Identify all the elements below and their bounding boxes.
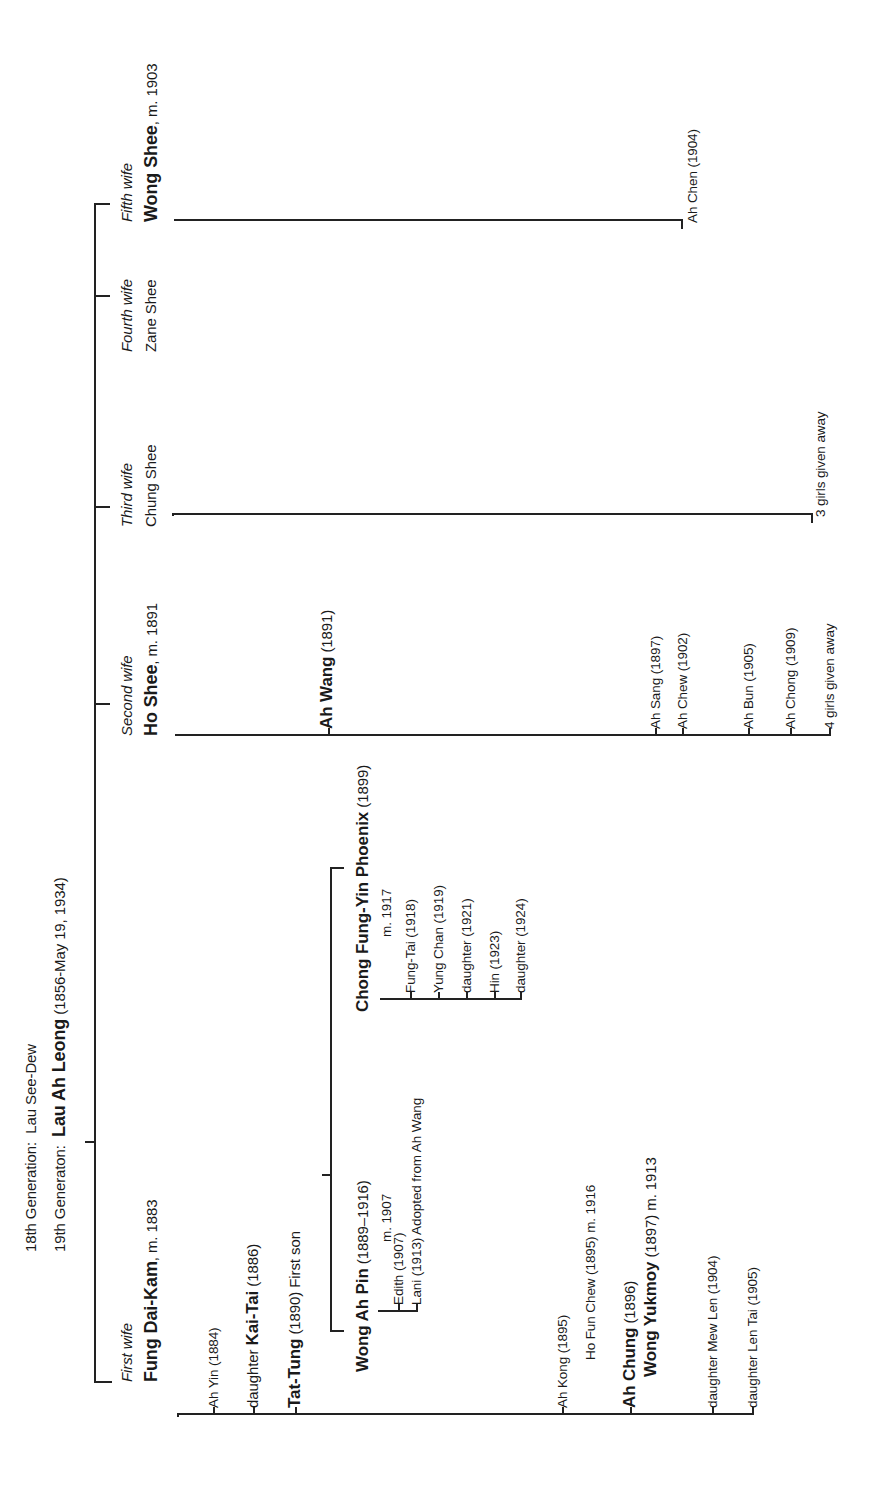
wife1-label: Fung Dai-Kam, m. 1883 — [142, 1200, 161, 1382]
child-hin: Hin (1923) — [486, 931, 504, 993]
child-ah-chen: Ah Chen (1904) — [684, 129, 702, 223]
child-tick — [213, 1407, 215, 1415]
wife5-ordinal: Fifth wife — [118, 163, 136, 222]
child-tick — [630, 1407, 632, 1415]
chong-married: m. 1917 — [378, 889, 396, 937]
child-4-girls: 4 girls given away — [821, 623, 839, 729]
generation-18: 18th Generation: Lau See-Dew — [22, 1044, 40, 1252]
child-daughter-1921: daughter (1921) — [458, 898, 476, 993]
wife2-name: Ho Shee — [141, 665, 161, 736]
wife5-children-line — [174, 219, 682, 221]
wife2-tick — [94, 703, 110, 705]
spouse-ho-fun-chew: Ho Fun Chew (1895) m. 1916 — [582, 1185, 600, 1360]
wife5-note: , m. 1903 — [143, 64, 160, 126]
name: Kai-Tai — [243, 1291, 262, 1346]
child-tick — [253, 1407, 255, 1415]
wife2-children-line — [175, 734, 830, 736]
generation-19: 19th Generaton: Lau Ah Leong (1856-May 1… — [50, 877, 69, 1252]
note: (1890) First son — [286, 1231, 303, 1339]
prefix: daughter — [244, 1346, 261, 1408]
note: (1897) m. 1913 — [642, 1157, 659, 1261]
child-tick — [562, 1407, 564, 1415]
chong-children-line — [380, 998, 522, 1000]
gen19-name: Lau Ah Leong — [49, 1019, 69, 1137]
child-ah-kong: Ah Kong (1895) — [554, 1315, 572, 1408]
child-tick — [748, 728, 750, 736]
child-tick — [655, 728, 657, 736]
wife3-tick — [94, 506, 110, 508]
name: Ah Chung — [620, 1328, 639, 1408]
child-tick — [752, 1407, 754, 1415]
child-tick — [438, 992, 440, 1000]
name: Tat-Tung — [285, 1339, 304, 1408]
child-ah-chew: Ah Chew (1902) — [674, 633, 692, 729]
child-tick — [681, 219, 683, 229]
gen19-dates: (1856-May 19, 1934) — [51, 877, 68, 1014]
child-tick — [682, 728, 684, 736]
bracket-end — [330, 1330, 344, 1332]
child-tick — [466, 992, 468, 1000]
wife3-children-line — [172, 513, 812, 515]
wife4-tick — [94, 295, 110, 297]
name: Chong Fung-Yin Phoenix — [353, 812, 372, 1012]
child-tick — [829, 728, 831, 736]
wife5-tick — [94, 203, 110, 205]
family-tree: 18th Generation: Lau See-Dew 19th Genera… — [0, 0, 879, 1492]
wife3-ordinal: Third wife — [118, 463, 136, 527]
wife4-name: Zane Shee — [142, 280, 160, 353]
child-tick — [410, 992, 412, 1000]
child-tick — [328, 728, 330, 736]
child-tick — [790, 728, 792, 736]
line-stub — [177, 1415, 179, 1417]
spouse-wong-yukmoy: Wong Yukmoy (1897) m. 1913 — [642, 1157, 660, 1377]
child-yung-chan: Yung Chan (1919) — [430, 885, 448, 993]
wives-trunk-line — [94, 203, 96, 1383]
wife1-name: Fung Dai-Kam — [141, 1261, 161, 1382]
wife2-label: Ho Shee, m. 1891 — [142, 603, 161, 736]
wife2-note: , m. 1891 — [143, 603, 160, 665]
child-tat-tung: Tat-Tung (1890) First son — [286, 1231, 304, 1408]
gen19-label: 19th Generaton: — [51, 1145, 68, 1252]
dates: (1889–1916) — [354, 1180, 371, 1268]
note: (1886) — [244, 1244, 261, 1291]
child-daughter-1924: daughter (1924) — [512, 898, 530, 993]
wife3-name: Chung Shee — [142, 445, 160, 527]
wife4-ordinal: Fourth wife — [118, 279, 136, 352]
note: (1896) — [621, 1281, 638, 1328]
child-tick — [398, 1304, 400, 1312]
wife1-note: , m. 1883 — [143, 1200, 160, 1262]
child-tick — [712, 1407, 714, 1415]
spouse-wong-ah-pin: Wong Ah Pin (1889–1916) — [354, 1180, 372, 1372]
child-ah-wang: Ah Wang (1891) — [318, 610, 336, 729]
note: (1891) — [318, 610, 335, 657]
child-edith: Edith (1907) — [390, 1233, 408, 1305]
child-ah-sang: Ah Sang (1897) — [647, 636, 665, 729]
child-ah-bun: Ah Bun (1905) — [740, 643, 758, 729]
wife5-label: Wong Shee, m. 1903 — [142, 64, 161, 222]
gen18-label: 18th Generation: — [22, 1142, 39, 1252]
gen18-name: Lau See-Dew — [22, 1044, 39, 1134]
wife2-ordinal: Second wife — [118, 655, 136, 736]
name: Wong Yukmoy — [641, 1262, 660, 1377]
spouse-chong-fung-yin: Chong Fung-Yin Phoenix (1899) — [354, 765, 372, 1012]
child-tick — [494, 992, 496, 1000]
wife1-tick — [94, 1381, 112, 1383]
dates: (1899) — [354, 765, 371, 812]
child-len-tai: daughter Len Tai (1905) — [744, 1267, 762, 1408]
child-3-girls: 3 girls given away — [812, 411, 830, 517]
child-lani: Lani (1913) Adopted from Ah Wang — [408, 1098, 426, 1305]
wife1-children-line — [177, 1413, 754, 1415]
child-fung-tai: Fung-Tai (1918) — [402, 899, 420, 993]
name: Wong Ah Pin — [353, 1268, 372, 1372]
child-mew-len: daughter Mew Len (1904) — [704, 1256, 722, 1408]
tat-tung-bracket — [330, 867, 332, 1332]
child-tick — [295, 1407, 297, 1415]
child-ah-yin: Ah Yin (1884) — [205, 1327, 223, 1408]
wife5-name: Wong Shee — [141, 125, 161, 222]
child-tick — [520, 992, 522, 1000]
name: Ah Wang — [317, 657, 336, 729]
child-ah-chong: Ah Chong (1909) — [782, 628, 800, 729]
child-tick — [416, 1304, 418, 1312]
child-kai-tai: daughter Kai-Tai (1886) — [244, 1244, 262, 1408]
child-ah-chung: Ah Chung (1896) — [621, 1281, 639, 1408]
